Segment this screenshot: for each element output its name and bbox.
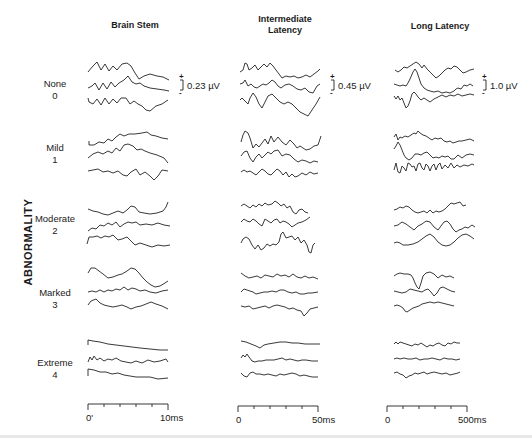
intermediate-axis-start: 0: [236, 414, 241, 425]
intermediate-axis-end: 50ms: [312, 414, 335, 425]
long-latency-axis-start: 0: [385, 414, 390, 425]
brain-stem-axis-end: 10ms: [160, 412, 183, 423]
long-latency-axis-end: 500ms: [458, 414, 487, 425]
brain-stem-axis-start: 0': [86, 412, 93, 423]
waveform-traces: [0, 0, 532, 438]
